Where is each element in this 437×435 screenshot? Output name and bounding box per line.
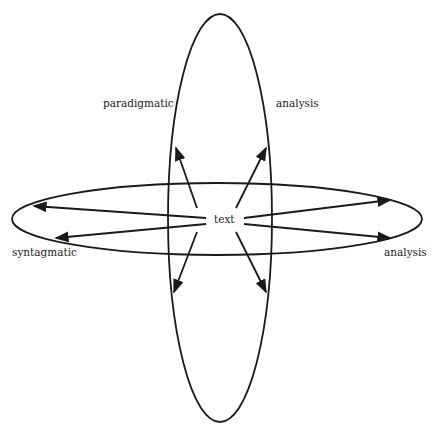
arrow-up-right <box>236 148 266 208</box>
diagram-canvas: text paradigmatic analysis syntagmatic a… <box>0 0 437 435</box>
arrow-down-left <box>174 232 197 292</box>
arrow-left-lower <box>56 224 206 238</box>
arrow-down-right <box>236 232 266 292</box>
label-paradigmatic: paradigmatic <box>103 97 174 109</box>
label-analysis-top: analysis <box>276 97 319 109</box>
arrow-left-upper <box>34 206 206 218</box>
arrow-up-left <box>176 148 197 208</box>
arrow-right-upper <box>244 200 390 218</box>
label-analysis-bottom: analysis <box>384 246 427 258</box>
arrow-right-lower <box>244 224 390 238</box>
label-syntagmatic: syntagmatic <box>12 246 77 258</box>
center-label: text <box>212 213 237 225</box>
